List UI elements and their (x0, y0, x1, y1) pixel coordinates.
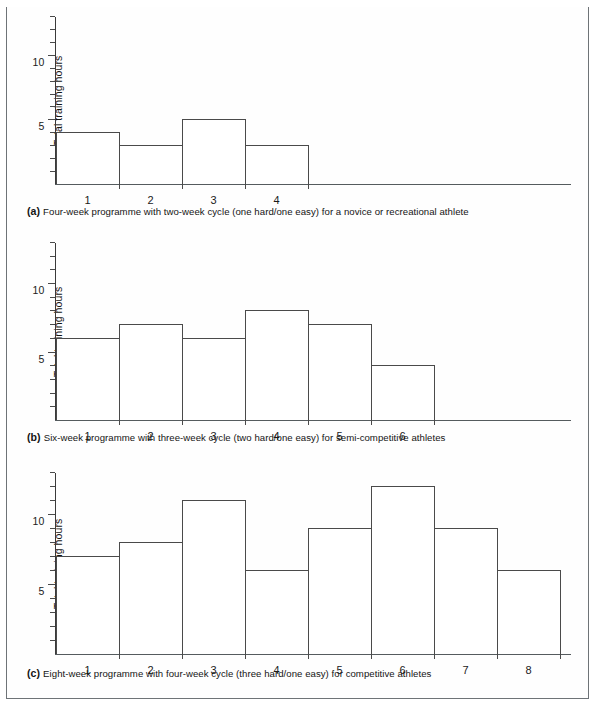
x-axis-a (55, 184, 571, 185)
chart-panel-b: Total training hours 123456 510 (b)Six-w… (7, 235, 590, 457)
x-tick-a-4 (308, 184, 309, 189)
y-tick-a-11 (50, 42, 55, 43)
caption-text-c: Eight-week programme with four-week cycl… (43, 668, 431, 679)
y-tick-a-5 (48, 119, 55, 120)
y-tick-a-6 (50, 106, 55, 107)
bar-c-week-6 (371, 486, 435, 654)
x-tick-b-5 (371, 420, 372, 425)
y-tick-b-8 (50, 310, 55, 311)
plot-area-b: Total training hours 123456 510 (55, 243, 582, 421)
y-tick-a-2 (50, 158, 55, 159)
bar-a-week-1 (56, 132, 120, 184)
panel-letter-a: (a) (27, 205, 40, 217)
bar-c-week-8 (497, 570, 561, 654)
x-tick-label-c-8: 8 (525, 664, 531, 676)
caption-a: (a)Four-week programme with two-week cyc… (27, 205, 469, 217)
y-tick-c-12 (50, 486, 55, 487)
y-tick-b-1 (50, 406, 55, 407)
bar-c-week-7 (434, 528, 498, 654)
y-tick-b-13 (50, 242, 55, 243)
y-tick-c-7 (50, 556, 55, 557)
bar-c-week-2 (119, 542, 183, 654)
y-tick-a-1 (50, 171, 55, 172)
x-tick-a-2 (182, 184, 183, 189)
bar-a-week-3 (182, 119, 246, 184)
bar-c-week-1 (56, 556, 120, 654)
plot-area-a: Total training hours 1234 510 (55, 17, 582, 185)
caption-text-a: Four-week programme with two-week cycle … (43, 206, 469, 217)
plot-area-c: Total training hours 12345678 510 (55, 473, 582, 655)
y-tick-c-5 (48, 584, 55, 585)
y-tick-b-3 (50, 379, 55, 380)
x-tick-c-2 (182, 654, 183, 659)
x-tick-label-c-7: 7 (462, 664, 468, 676)
bar-a-week-2 (119, 145, 183, 184)
x-tick-b-2 (182, 420, 183, 425)
x-tick-a-1 (119, 184, 120, 189)
y-tick-b-2 (50, 393, 55, 394)
y-tick-c-6 (50, 570, 55, 571)
caption-b: (b)Six-week programme with three-week cy… (27, 431, 445, 443)
bar-c-week-4 (245, 570, 309, 654)
y-tick-b-4 (50, 365, 55, 366)
panel-letter-b: (b) (27, 431, 41, 443)
bar-c-week-3 (182, 500, 246, 654)
x-tick-b-1 (119, 420, 120, 425)
y-tick-c-2 (50, 626, 55, 627)
x-axis-c (55, 654, 571, 655)
x-tick-b-3 (245, 420, 246, 425)
y-tick-a-10 (48, 55, 55, 56)
x-tick-c-8 (560, 654, 561, 659)
y-tick-b-11 (50, 269, 55, 270)
x-axis-b (55, 420, 571, 421)
caption-c: (c)Eight-week programme with four-week c… (27, 667, 431, 679)
y-tick-a-13 (50, 16, 55, 17)
chart-panel-c: Total training hours 12345678 510 (c)Eig… (7, 459, 590, 697)
y-tick-c-3 (50, 612, 55, 613)
y-tick-b-5 (48, 352, 55, 353)
y-tick-b-9 (50, 297, 55, 298)
y-tick-c-1 (50, 640, 55, 641)
y-tick-a-8 (50, 81, 55, 82)
x-tick-c-4 (308, 654, 309, 659)
y-tick-b-6 (50, 338, 55, 339)
x-tick-b-4 (308, 420, 309, 425)
y-tick-c-13 (50, 472, 55, 473)
y-tick-a-12 (50, 29, 55, 30)
panel-letter-c: (c) (27, 667, 40, 679)
y-tick-b-12 (50, 256, 55, 257)
x-tick-c-7 (497, 654, 498, 659)
bar-b-week-1 (56, 338, 120, 420)
y-tick-c-10 (48, 514, 55, 515)
bar-b-week-6 (371, 365, 435, 420)
caption-text-b: Six-week programme with three-week cycle… (44, 432, 446, 443)
y-tick-b-10 (48, 283, 55, 284)
y-tick-c-4 (50, 598, 55, 599)
bar-b-week-2 (119, 324, 183, 420)
figure-frame: Total training hours 1234 510 (a)Four-we… (6, 6, 589, 699)
bar-b-week-5 (308, 324, 372, 420)
x-tick-b-6 (434, 420, 435, 425)
y-tick-c-8 (50, 542, 55, 543)
bar-c-week-5 (308, 528, 372, 654)
bar-a-week-4 (245, 145, 309, 184)
x-tick-c-1 (119, 654, 120, 659)
y-tick-a-4 (50, 132, 55, 133)
y-tick-b-7 (50, 324, 55, 325)
bar-b-week-3 (182, 338, 246, 420)
x-tick-c-3 (245, 654, 246, 659)
chart-panel-a: Total training hours 1234 510 (a)Four-we… (7, 9, 590, 231)
y-tick-a-3 (50, 145, 55, 146)
bar-b-week-4 (245, 310, 309, 420)
y-tick-c-9 (50, 528, 55, 529)
x-tick-c-6 (434, 654, 435, 659)
y-tick-c-11 (50, 500, 55, 501)
x-tick-a-3 (245, 184, 246, 189)
y-tick-a-9 (50, 68, 55, 69)
y-tick-a-7 (50, 94, 55, 95)
x-tick-c-5 (371, 654, 372, 659)
